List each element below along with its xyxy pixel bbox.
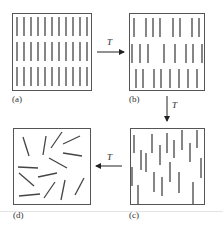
arrow-label-t-bc: T	[172, 100, 177, 110]
arrow-label-t-cd: T	[107, 152, 112, 162]
panel-d	[14, 129, 91, 205]
panel-a-rods	[17, 17, 87, 86]
panel-label-b: (b)	[129, 94, 140, 104]
panel-b-rods	[132, 18, 202, 88]
diagram-graphics	[0, 0, 223, 230]
panel-label-c: (c)	[129, 210, 139, 220]
arrow-label-t-ab: T	[107, 37, 112, 47]
panel-a	[13, 14, 92, 91]
panel-label-a: (a)	[12, 94, 22, 104]
panel-c	[131, 129, 205, 205]
panel-d-rods	[18, 132, 84, 200]
phase-diagram: T T T (a) (b) (c) (d)	[0, 0, 223, 230]
panel-label-d: (d)	[13, 210, 24, 220]
panel-b	[130, 14, 205, 91]
panel-c-rods	[132, 130, 201, 204]
